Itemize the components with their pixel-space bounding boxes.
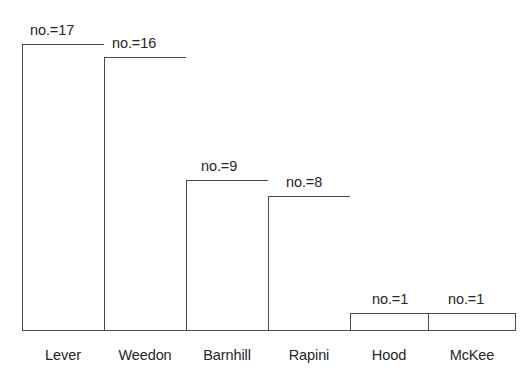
bar-rapini[interactable] <box>268 196 350 331</box>
value-label-mckee: no.=1 <box>448 292 484 307</box>
x-axis-label-mckee: McKee <box>428 348 516 363</box>
bar-weedon[interactable] <box>104 57 186 331</box>
value-label-lever: no.=17 <box>30 23 74 38</box>
bar-hood[interactable] <box>350 313 428 331</box>
x-axis-label-lever: Lever <box>22 348 104 363</box>
x-axis-label-rapini: Rapini <box>268 348 350 363</box>
x-axis-label-weedon: Weedon <box>104 348 186 363</box>
value-label-weedon: no.=16 <box>112 36 156 51</box>
bar-barnhill[interactable] <box>186 180 268 331</box>
bar-lever[interactable] <box>22 44 104 331</box>
x-axis-label-hood: Hood <box>350 348 428 363</box>
plot-area: no.=17 no.=16 no.=9 no.=8 no.=1 no.=1 Le… <box>0 0 528 381</box>
x-axis-label-barnhill: Barnhill <box>186 348 268 363</box>
value-label-barnhill: no.=9 <box>201 159 237 174</box>
bar-mckee[interactable] <box>428 313 516 331</box>
value-label-rapini: no.=8 <box>286 175 322 190</box>
bar-chart: no.=17 no.=16 no.=9 no.=8 no.=1 no.=1 Le… <box>0 0 528 381</box>
value-label-hood: no.=1 <box>372 292 408 307</box>
